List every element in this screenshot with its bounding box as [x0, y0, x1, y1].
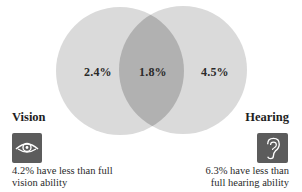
- ear-icon: [257, 133, 288, 163]
- overlap-value: 1.8%: [139, 65, 167, 80]
- hearing-only-value: 4.5%: [201, 65, 229, 80]
- vision-description-line1: 4.2% have less than full: [12, 165, 113, 177]
- hearing-description: 6.3% have less than full hearing ability: [206, 165, 289, 189]
- venn-diagram: [0, 0, 302, 192]
- vision-description-line2: vision ability: [12, 177, 113, 189]
- hearing-description-line1: 6.3% have less than: [206, 165, 289, 177]
- hearing-description-line2: full hearing ability: [206, 177, 289, 189]
- hearing-label: Hearing: [245, 110, 289, 125]
- vision-label: Vision: [12, 110, 46, 125]
- vision-only-value: 2.4%: [84, 65, 112, 80]
- eye-icon: [12, 133, 42, 163]
- vision-description: 4.2% have less than full vision ability: [12, 165, 113, 189]
